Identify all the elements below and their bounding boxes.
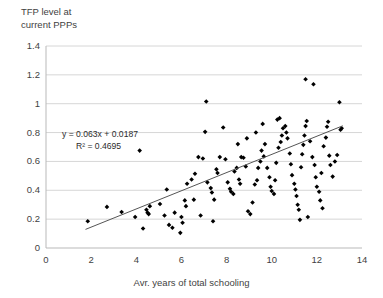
trendline-r2-label: R² = 0.4695 xyxy=(76,141,121,151)
data-point xyxy=(183,198,188,203)
data-point xyxy=(319,171,324,176)
data-point xyxy=(225,180,230,185)
data-point xyxy=(170,226,175,231)
data-point xyxy=(245,136,250,141)
data-point xyxy=(303,124,308,129)
data-point xyxy=(330,174,335,179)
data-point xyxy=(201,156,206,161)
y-tick-label: 0.4 xyxy=(14,184,40,195)
data-point xyxy=(320,206,325,211)
data-point xyxy=(259,148,264,153)
data-point xyxy=(300,152,305,157)
data-point xyxy=(321,144,326,149)
x-tick-label: 0 xyxy=(33,254,59,265)
data-point xyxy=(278,140,283,145)
data-point xyxy=(158,202,163,207)
data-point xyxy=(223,157,228,162)
trendline xyxy=(86,126,343,230)
data-point xyxy=(273,178,278,183)
data-point xyxy=(211,219,216,224)
x-tick-label: 8 xyxy=(214,254,240,265)
data-point xyxy=(260,122,265,127)
data-point xyxy=(310,155,315,160)
data-point xyxy=(287,151,292,156)
x-tick-label: 6 xyxy=(168,254,194,265)
y-tick-label: 1 xyxy=(14,98,40,109)
data-point xyxy=(252,182,257,187)
data-point xyxy=(276,145,281,150)
data-point xyxy=(327,153,332,158)
data-point xyxy=(141,226,146,231)
data-point xyxy=(293,187,298,192)
y-tick-label: 1.4 xyxy=(14,40,40,51)
x-axis-title: Avr. years of total schooling xyxy=(0,277,383,290)
data-point xyxy=(280,133,285,138)
data-point xyxy=(306,215,311,220)
data-point xyxy=(265,166,270,171)
y-tick-label: 1.2 xyxy=(14,69,40,80)
x-tick-label: 4 xyxy=(123,254,149,265)
data-point xyxy=(255,178,260,183)
data-point xyxy=(256,166,261,171)
data-point xyxy=(184,204,189,209)
data-point xyxy=(85,219,90,224)
data-point xyxy=(164,187,169,192)
data-point xyxy=(285,136,290,141)
data-point xyxy=(315,184,320,189)
data-point xyxy=(137,148,142,153)
data-point xyxy=(119,210,124,215)
x-tick-label: 10 xyxy=(259,254,285,265)
data-point xyxy=(318,198,323,203)
data-point xyxy=(179,215,184,220)
data-point xyxy=(180,220,185,225)
data-point xyxy=(311,82,316,87)
data-point xyxy=(254,130,259,135)
trendline-equation-label: y = 0.063x + 0.0187 xyxy=(62,129,138,139)
data-point xyxy=(333,159,338,164)
data-point xyxy=(172,210,177,215)
data-point xyxy=(196,155,201,160)
data-point xyxy=(133,215,138,220)
y-tick-label: 0.8 xyxy=(14,127,40,138)
data-point xyxy=(263,142,268,147)
data-point xyxy=(178,231,183,236)
data-point xyxy=(292,181,297,186)
scatter-chart: TFP level at current PPPs y = 0.063x + 0… xyxy=(0,0,383,298)
data-point xyxy=(268,184,273,189)
data-point-group xyxy=(85,77,344,235)
data-point xyxy=(204,99,209,104)
data-point xyxy=(290,173,295,178)
data-point xyxy=(299,165,304,170)
data-point xyxy=(185,181,190,186)
data-point xyxy=(250,200,255,205)
trendline-segment xyxy=(86,126,343,230)
data-point xyxy=(193,171,198,176)
x-tick-label: 2 xyxy=(78,254,104,265)
data-point xyxy=(303,77,308,82)
data-point xyxy=(105,205,110,210)
data-point xyxy=(301,143,306,148)
x-tick-label: 14 xyxy=(349,254,375,265)
data-point xyxy=(238,181,243,186)
data-point xyxy=(302,133,307,138)
x-tick-label: 12 xyxy=(304,254,330,265)
data-point xyxy=(208,186,213,191)
data-point xyxy=(203,130,208,135)
data-point xyxy=(326,119,331,124)
data-point xyxy=(284,130,289,135)
data-point xyxy=(218,155,223,160)
data-point xyxy=(237,177,242,182)
data-point xyxy=(221,125,226,130)
data-point xyxy=(298,218,303,223)
data-point xyxy=(162,213,167,218)
data-point xyxy=(215,171,220,176)
data-point xyxy=(198,213,203,218)
data-point xyxy=(325,125,330,130)
data-point xyxy=(324,135,329,140)
y-tick-label: 0 xyxy=(14,242,40,253)
data-point xyxy=(313,175,318,180)
y-tick-label: 0.2 xyxy=(14,213,40,224)
data-point xyxy=(297,207,302,212)
data-point xyxy=(167,223,172,228)
data-point xyxy=(294,194,299,199)
